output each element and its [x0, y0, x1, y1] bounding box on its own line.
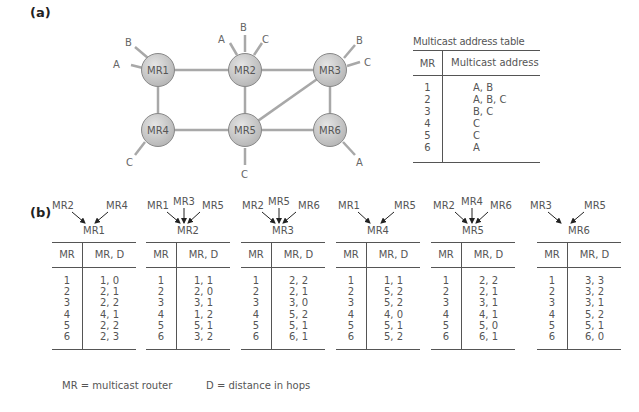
cell: 5, 2 — [367, 297, 420, 308]
cell: 2, 2 — [83, 297, 136, 308]
cell: 5, 2 — [367, 331, 420, 342]
table-name: MR3 — [241, 224, 325, 238]
cell: C — [473, 130, 540, 142]
cell: 2 — [241, 286, 271, 297]
header-mrd: MR, D — [461, 243, 515, 267]
input-label: MR4 — [106, 200, 128, 211]
table-name: MR2 — [146, 224, 230, 238]
header-mrd: MR, D — [176, 243, 230, 267]
header-mrd: MR, D — [567, 243, 621, 267]
router-node-mr1: MR1 — [142, 54, 175, 87]
cell: 3, 1 — [462, 297, 515, 308]
svg-text:MR3: MR3 — [319, 65, 341, 76]
cell: 4, 0 — [367, 309, 420, 320]
cell: 1 — [336, 275, 366, 286]
table-header: MR Multicast address — [413, 50, 540, 76]
host-label: C — [241, 169, 248, 180]
multicast-address-table: Multicast address table MR Multicast add… — [413, 36, 540, 163]
input-label: MR6 — [490, 200, 512, 211]
cell: 6, 1 — [272, 331, 325, 342]
host-label: A — [113, 59, 120, 70]
input-label: MR3 — [173, 196, 195, 207]
cell: 2 — [336, 286, 366, 297]
table-name: MR5 — [431, 224, 515, 238]
cell: 6 — [241, 331, 271, 342]
header-address: Multicast address — [442, 51, 540, 75]
host-label: B — [356, 35, 363, 46]
cell: 2 — [537, 286, 567, 297]
cell: 2, 1 — [272, 286, 325, 297]
cell: A — [473, 142, 540, 154]
header-mr: MR — [336, 243, 366, 267]
header-mr: MR — [431, 243, 461, 267]
table-name: MR6 — [537, 224, 621, 238]
router-node-mr4: MR4 — [142, 114, 175, 147]
header-mr: MR — [241, 243, 271, 267]
routing-table-mr4: MR4 MRMR, D 123456 1, 15, 25, 24, 05, 15… — [336, 224, 420, 350]
cell: 6 — [336, 331, 366, 342]
cell: 2 — [52, 286, 82, 297]
cell: 1, 0 — [83, 275, 136, 286]
cell: 5, 1 — [568, 320, 621, 331]
cell: 3 — [52, 297, 82, 308]
cell: 3 — [413, 106, 442, 118]
input-label: MR5 — [268, 196, 290, 207]
host-label: B — [125, 37, 132, 48]
cell: 1, 2 — [177, 309, 230, 320]
table-name: MR4 — [336, 224, 420, 238]
cell: 2, 3 — [83, 331, 136, 342]
cell: 5, 0 — [462, 320, 515, 331]
cell: 3, 3 — [568, 275, 621, 286]
router-node-mr6: MR6 — [314, 114, 347, 147]
table-name: MR1 — [52, 224, 136, 238]
cell: 2, 0 — [177, 286, 230, 297]
cell: 3 — [431, 297, 461, 308]
network-diagram: B A A B C B C C C A MR1 MR2 MR3 MR4 MR5 … — [0, 0, 639, 200]
cell: 5, 1 — [177, 320, 230, 331]
input-label: MR1 — [147, 200, 169, 211]
table-body: 1 2 3 4 5 6 A, B A, B, C B, C C C A — [413, 76, 540, 163]
routing-table-mr3: MR3 MRMR, D 123456 2, 22, 13, 05, 25, 16… — [241, 224, 325, 350]
svg-text:MR4: MR4 — [147, 125, 169, 136]
cell: 2, 2 — [272, 275, 325, 286]
cell: 6 — [146, 331, 176, 342]
cell: 2 — [431, 286, 461, 297]
cell: 5, 1 — [272, 320, 325, 331]
cell: 1 — [241, 275, 271, 286]
input-label: MR6 — [298, 200, 320, 211]
cell: 3 — [537, 297, 567, 308]
routing-table-mr2: MR2 MRMR, D 123456 1, 12, 03, 11, 25, 13… — [146, 224, 230, 350]
cell: 5 — [431, 320, 461, 331]
cell: 4 — [52, 309, 82, 320]
router-node-mr3: MR3 — [314, 54, 347, 87]
cell: 4 — [146, 309, 176, 320]
cell: 1 — [537, 275, 567, 286]
cell: 5, 2 — [367, 286, 420, 297]
cell: 5 — [52, 320, 82, 331]
host-labels: B A A B C B C C C A — [113, 22, 371, 180]
cell: 6, 0 — [568, 331, 621, 342]
cell: 4 — [241, 309, 271, 320]
cell: 1 — [146, 275, 176, 286]
header-mr: MR — [146, 243, 176, 267]
input-label: MR5 — [394, 200, 416, 211]
cell: 5 — [336, 320, 366, 331]
cell: 6, 1 — [462, 331, 515, 342]
host-label: A — [356, 157, 363, 168]
routing-table-mr1: MR1 MRMR, D 123456 1, 02, 12, 24, 12, 22… — [52, 224, 136, 350]
header-mrd: MR, D — [366, 243, 420, 267]
cell: A, B, C — [473, 94, 540, 106]
input-label: MR3 — [530, 200, 552, 211]
routing-table-mr6: MR6 MRMR, D 123456 3, 33, 23, 15, 25, 16… — [537, 224, 621, 350]
header-mr: MR — [52, 243, 82, 267]
svg-text:MR5: MR5 — [234, 125, 256, 136]
input-label: MR2 — [52, 200, 74, 211]
cell: 1 — [52, 275, 82, 286]
cell: 6 — [413, 142, 442, 154]
cell: 3 — [336, 297, 366, 308]
cell: 4 — [413, 118, 442, 130]
input-label: MR2 — [242, 200, 264, 211]
header-mrd: MR, D — [82, 243, 136, 267]
router-node-mr5: MR5 — [229, 114, 262, 147]
cell: 5 — [537, 320, 567, 331]
